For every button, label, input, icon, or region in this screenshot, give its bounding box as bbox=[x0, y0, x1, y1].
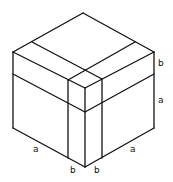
edge-band-left bbox=[13, 74, 85, 112]
label-right-bottom-a: a bbox=[130, 144, 136, 154]
edge-front-top-right bbox=[85, 52, 154, 88]
edge-outer-top-right bbox=[83, 13, 154, 52]
label-right-top-b: b bbox=[158, 58, 164, 68]
edge-top-line-b bbox=[68, 42, 135, 80]
edge-top-line-a bbox=[32, 42, 102, 79]
edge-outer-bottom-left bbox=[13, 128, 85, 167]
label-right-a: a bbox=[158, 95, 164, 105]
edge-outer-bottom-right bbox=[85, 128, 154, 167]
label-bottom-left-b: b bbox=[70, 165, 76, 175]
edge-front-top-left bbox=[13, 52, 85, 88]
edge-outer-top-left bbox=[13, 13, 83, 52]
label-left-bottom-a: a bbox=[33, 144, 39, 154]
cube-diagram: b a a b b a bbox=[0, 0, 173, 182]
edge-band-right bbox=[85, 74, 154, 112]
label-bottom-right-b: b bbox=[94, 165, 100, 175]
